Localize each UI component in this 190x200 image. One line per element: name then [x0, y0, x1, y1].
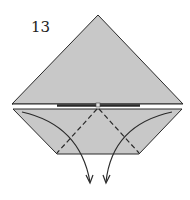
center-seam [12, 103, 183, 107]
origami-diagram: 13 [0, 0, 190, 200]
diagram-drawing [0, 0, 190, 200]
step-number: 13 [31, 20, 50, 35]
